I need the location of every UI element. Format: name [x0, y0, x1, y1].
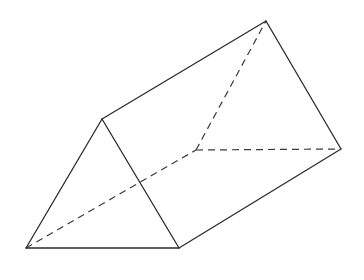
triangular-prism-diagram — [0, 0, 364, 280]
hidden-edge-fd — [196, 21, 266, 150]
hidden-edge-fe — [196, 149, 341, 150]
edge-ac — [102, 119, 179, 248]
visible-edges — [26, 21, 341, 248]
edge-ce — [179, 149, 341, 248]
edge-ab — [26, 119, 102, 248]
edge-ad — [102, 21, 266, 119]
edge-de — [266, 21, 341, 149]
hidden-edges — [26, 21, 341, 248]
